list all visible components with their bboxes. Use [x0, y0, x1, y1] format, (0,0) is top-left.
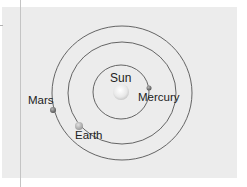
- mercury-label: Mercury: [138, 92, 180, 104]
- earth-label: Earth: [75, 130, 103, 142]
- mercury-planet-icon: [147, 86, 152, 91]
- mars-label: Mars: [28, 95, 54, 107]
- mars-planet-icon: [50, 107, 56, 113]
- sun-label: Sun: [110, 72, 131, 84]
- sun-icon: [113, 84, 129, 100]
